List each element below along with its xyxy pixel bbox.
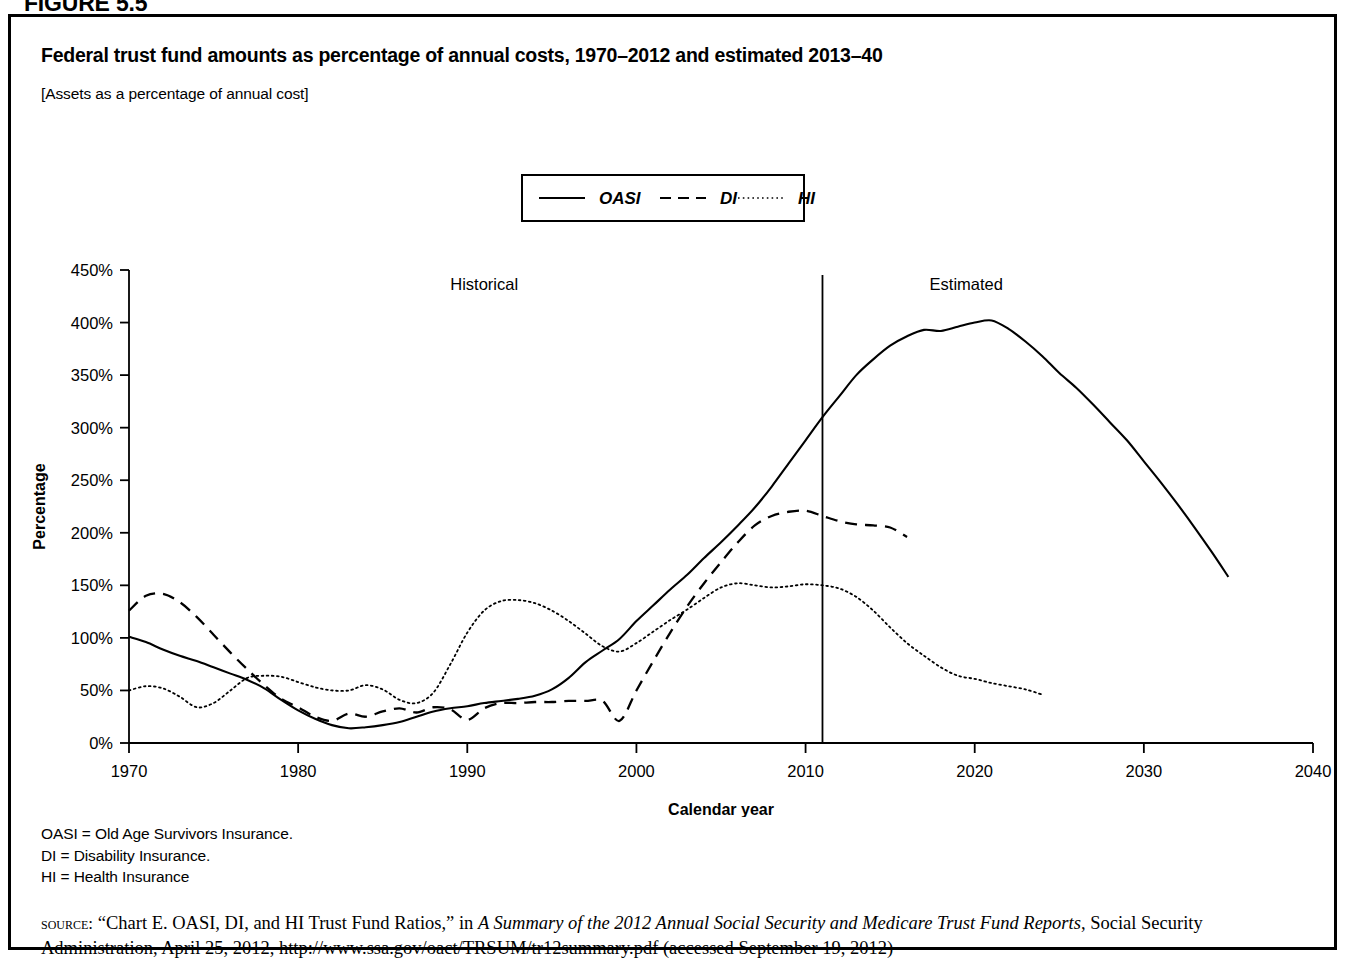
y-tick-label: 150% xyxy=(71,576,114,594)
source-note: source: “Chart E. OASI, DI, and HI Trust… xyxy=(41,911,1311,960)
y-axis-title: Percentage xyxy=(31,463,48,549)
legend-label-oasi: OASI xyxy=(599,189,642,208)
x-tick-label: 2010 xyxy=(787,762,824,780)
legend-label-di: DI xyxy=(720,189,738,208)
page-title: Federal trust fund amounts as percentage… xyxy=(41,44,883,67)
legend-label-hi: HI xyxy=(798,189,816,208)
source-text-1: “Chart E. OASI, DI, and HI Trust Fund Ra… xyxy=(98,913,478,933)
y-tick-label: 50% xyxy=(80,681,113,699)
y-tick-label: 450% xyxy=(71,261,114,279)
footnote-di: DI = Disability Insurance. xyxy=(41,845,293,867)
chart-axes: 0%50%100%150%200%250%300%350%400%450%197… xyxy=(71,261,1332,780)
y-tick-label: 350% xyxy=(71,366,114,384)
chart-annotations: Historical Estimated xyxy=(450,275,1003,743)
source-label: source: xyxy=(41,914,93,933)
chart-legend: OASI DI HI xyxy=(522,175,816,221)
chart-subtitle: [Assets as a percentage of annual cost] xyxy=(41,85,309,103)
series-line-di xyxy=(129,510,907,721)
chart-series xyxy=(129,320,1228,728)
x-tick-label: 2000 xyxy=(618,762,655,780)
estimated-label: Estimated xyxy=(930,275,1003,293)
x-tick-label: 1990 xyxy=(449,762,486,780)
x-tick-label: 1970 xyxy=(111,762,148,780)
y-tick-label: 200% xyxy=(71,524,114,542)
y-tick-label: 100% xyxy=(71,629,114,647)
footnote-oasi: OASI = Old Age Survivors Insurance. xyxy=(41,823,293,845)
y-tick-label: 0% xyxy=(89,734,113,752)
x-tick-label: 2020 xyxy=(956,762,993,780)
y-tick-label: 300% xyxy=(71,419,114,437)
historical-label: Historical xyxy=(450,275,518,293)
x-tick-label: 2030 xyxy=(1125,762,1162,780)
series-line-oasi xyxy=(129,320,1228,728)
source-italic-title: A Summary of the 2012 Annual Social Secu… xyxy=(478,913,1081,933)
y-tick-label: 250% xyxy=(71,471,114,489)
figure-box: Federal trust fund amounts as percentage… xyxy=(8,14,1337,950)
trust-fund-ratio-line-chart: OASI DI HI 0%50%100%150%200%250%300%350%… xyxy=(11,157,1334,817)
y-tick-label: 400% xyxy=(71,314,114,332)
x-axis-title: Calendar year xyxy=(668,801,774,817)
x-tick-label: 2040 xyxy=(1295,762,1332,780)
x-tick-label: 1980 xyxy=(280,762,317,780)
footnotes-block: OASI = Old Age Survivors Insurance. DI =… xyxy=(41,823,293,888)
chart-plot-area: OASI DI HI 0%50%100%150%200%250%300%350%… xyxy=(11,157,1334,817)
footnote-hi: HI = Health Insurance xyxy=(41,866,293,888)
